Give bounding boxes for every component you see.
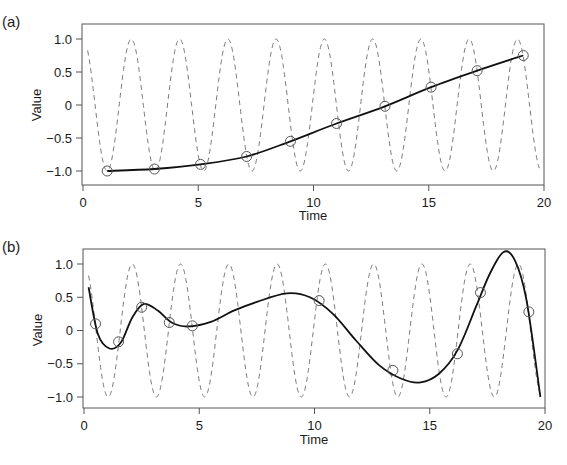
panel-b-y-axis-title: Value <box>30 314 45 346</box>
x-tick-label: 20 <box>538 418 552 433</box>
panel-b-sample-points <box>91 288 534 376</box>
x-tick-label: 15 <box>422 195 436 210</box>
panel-a-x-axis-title: Time <box>299 208 327 223</box>
panel-b-label: (b) <box>2 238 20 255</box>
x-tick-label: 20 <box>537 195 551 210</box>
panel-a-label: (a) <box>2 13 20 30</box>
y-tick-label: 1.0 <box>54 32 72 47</box>
panel-b-x-axis: 05101520 <box>80 408 552 433</box>
panel-a-signal-line <box>88 39 540 171</box>
panel-a-reconstruction-line <box>107 56 523 172</box>
x-tick-label: 0 <box>80 418 87 433</box>
panel-a-x-axis: 05101520 <box>79 185 551 210</box>
y-tick-label: 0.5 <box>55 290 73 305</box>
panel-a-y-axis-title: Value <box>29 89 44 121</box>
y-tick-label: 0.5 <box>54 65 72 80</box>
panel-b-x-axis-title: Time <box>300 432 328 447</box>
x-tick-label: 10 <box>307 418 321 433</box>
x-tick-label: 15 <box>423 418 437 433</box>
x-tick-label: 5 <box>196 418 203 433</box>
panel-b-plot-frame <box>83 249 545 408</box>
panel-b-signal-line <box>89 264 541 397</box>
panel-a: (a) −1.0−0.500.51.0 05101520 Time Value <box>2 13 551 223</box>
panel-b: (b) −1.0−0.500.51.0 05101520 Time Value <box>2 238 552 447</box>
panel-b-y-axis: −1.0−0.500.51.0 <box>47 257 83 405</box>
y-tick-label: 0 <box>65 98 72 113</box>
y-tick-label: 1.0 <box>55 257 73 272</box>
panel-a-y-axis: −1.0−0.500.51.0 <box>46 32 82 179</box>
y-tick-label: −1.0 <box>46 164 72 179</box>
y-tick-label: −1.0 <box>47 390 73 405</box>
x-tick-label: 5 <box>195 195 202 210</box>
y-tick-label: 0 <box>66 323 73 338</box>
x-tick-label: 0 <box>79 195 86 210</box>
y-tick-label: −0.5 <box>47 356 73 371</box>
figure: (a) −1.0−0.500.51.0 05101520 Time Value … <box>0 0 567 465</box>
y-tick-label: −0.5 <box>46 131 72 146</box>
